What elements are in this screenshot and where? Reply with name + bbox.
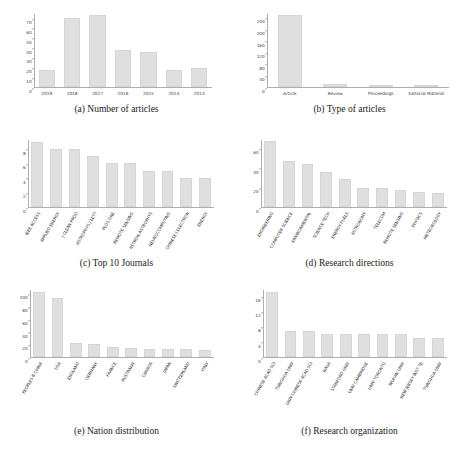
x-tick-label: ENGLAND xyxy=(66,361,80,381)
y-tick-label: 0 xyxy=(256,209,259,214)
plot-area-a: 2019201820172016201520142013 01020304050… xyxy=(34,14,212,88)
bar-series-f xyxy=(263,290,447,357)
bar xyxy=(340,334,352,357)
y-tick-label: 20 xyxy=(26,69,31,74)
x-tick-label: METEOROLOGY xyxy=(422,211,442,240)
y-tick-mark xyxy=(265,18,267,19)
x-tick-label: TSINGHUA UNIV xyxy=(422,361,442,391)
bar xyxy=(115,50,131,87)
bar xyxy=(266,292,278,357)
y-tick-mark xyxy=(28,294,30,295)
bar xyxy=(199,178,211,207)
panel-caption-f: (f) Research organization xyxy=(301,426,397,436)
x-tick-label: ITALY xyxy=(200,361,209,372)
y-tick-label: 70 xyxy=(26,19,31,24)
bar-series-d xyxy=(261,140,447,207)
x-tick-label: SWITZERLAND xyxy=(172,361,191,389)
bar xyxy=(180,178,192,207)
y-tick-label: 0 xyxy=(262,89,265,94)
y-tick-label: 0 xyxy=(258,359,261,364)
panel-d: ENGINEERINGCOMPUTER SCIENCEENVIRONMENTAL… xyxy=(233,130,466,280)
y-tick-mark xyxy=(265,30,267,31)
bar xyxy=(88,344,100,357)
y-tick-label: 2 xyxy=(23,194,26,199)
y-tick-mark xyxy=(261,312,263,313)
bar xyxy=(87,156,99,207)
x-tick-label: Proceedings xyxy=(358,91,404,96)
bar xyxy=(376,188,388,208)
bar xyxy=(321,334,333,357)
bar xyxy=(52,298,64,358)
x-tick-label: 2013 xyxy=(187,91,212,96)
x-tick-label: 2014 xyxy=(161,91,186,96)
bar xyxy=(143,171,155,208)
x-tick-label: PHYSICS xyxy=(411,211,424,228)
x-tick-label: AUSTRALIA xyxy=(120,361,135,383)
x-tick-label: 2018 xyxy=(59,91,84,96)
x-axis-f xyxy=(263,357,447,358)
bar xyxy=(140,52,156,88)
y-tick-mark xyxy=(28,307,30,308)
y-tick-label: 40 xyxy=(22,333,27,338)
y-tick-mark xyxy=(265,65,267,66)
y-tick-label: 8 xyxy=(258,328,261,333)
y-tick-mark xyxy=(261,343,263,344)
bar xyxy=(377,334,389,357)
bar xyxy=(124,163,136,207)
y-tick-label: 0 xyxy=(25,359,28,364)
y-tick-mark xyxy=(32,29,34,30)
bar xyxy=(303,331,315,358)
x-tick-label: SCIENCE TECH xyxy=(311,211,330,239)
bar xyxy=(191,68,207,88)
x-tick-label: 2017 xyxy=(85,91,110,96)
y-tick-label: 40 xyxy=(259,77,264,82)
y-tick-label: 20 xyxy=(22,346,27,351)
x-tick-label: Editorial Material xyxy=(404,91,450,96)
x-tick-label: ENERGY xyxy=(197,211,209,228)
x-tick-label: WUHAN UNIV xyxy=(387,361,405,387)
y-tick-label: 4 xyxy=(23,179,26,184)
y-tick-mark xyxy=(259,188,261,189)
bar xyxy=(180,349,192,357)
figure-sheet: 2019201820172016201520142013 01020304050… xyxy=(0,0,466,452)
x-tick-label: ENVIRONMENTAL xyxy=(290,211,312,243)
bar xyxy=(144,349,156,357)
x-tick-label: UNIV TORONTO xyxy=(367,361,387,391)
bar xyxy=(395,334,407,357)
bar-series-b xyxy=(267,14,449,87)
y-tick-label: 60 xyxy=(22,320,27,325)
x-tick-label: ASTROPHYS J LETT xyxy=(74,211,97,246)
bar xyxy=(33,292,45,357)
x-tick-labels-b: ArticleReviewProceedingsEditorial Materi… xyxy=(267,91,449,96)
y-tick-mark xyxy=(28,358,30,359)
bar xyxy=(413,192,425,208)
y-tick-label: 8 xyxy=(23,150,26,155)
y-tick-label: 240 xyxy=(257,19,265,24)
y-tick-mark xyxy=(32,19,34,20)
panel-caption-e: (e) Nation distribution xyxy=(74,426,159,436)
x-tick-label: PLOS ONE xyxy=(102,211,116,231)
y-tick-mark xyxy=(265,88,267,89)
y-tick-label: 120 xyxy=(257,54,265,59)
x-tick-label: TELECOM xyxy=(372,211,386,230)
y-tick-label: 40 xyxy=(26,49,31,54)
y-tick-mark xyxy=(32,78,34,79)
bar xyxy=(395,190,407,208)
y-tick-mark xyxy=(32,88,34,89)
bar xyxy=(264,141,276,207)
panel-c: IEEE ACCESSAPPLIED ENERGYJ CLEAN PRODAST… xyxy=(0,130,233,280)
bar xyxy=(64,18,80,87)
x-tick-labels-e: PEOPLES R CHINAUSAENGLANDGERMANYFRANCEAU… xyxy=(30,359,214,419)
plot-area-e: PEOPLES R CHINAUSAENGLANDGERMANYFRANCEAU… xyxy=(30,290,214,358)
bar xyxy=(285,331,297,358)
y-tick-label: 60 xyxy=(26,29,31,34)
x-tick-label: Article xyxy=(267,91,313,96)
x-tick-labels-f: CHINESE ACAD SCITSINGHUA UNIVUNIV CHINES… xyxy=(263,359,447,419)
panel-caption-b: (b) Type of articles xyxy=(313,104,385,114)
plot-area-d: ENGINEERINGCOMPUTER SCIENCEENVIRONMENTAL… xyxy=(261,140,447,208)
x-tick-label: ENERGY FUELS xyxy=(330,211,349,240)
bar xyxy=(89,15,105,87)
bar xyxy=(199,350,211,357)
bar-series-c xyxy=(28,140,214,207)
x-tick-label: 2019 xyxy=(34,91,59,96)
